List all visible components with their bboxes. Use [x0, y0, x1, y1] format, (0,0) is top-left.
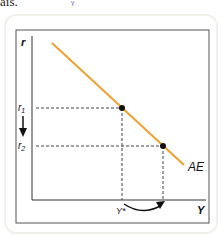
ystar-label: Y*: [116, 206, 126, 216]
equilibrium-point-1: [119, 105, 125, 111]
y-axis-label: r: [21, 36, 26, 48]
ae-label: AE: [187, 160, 205, 174]
diagram-frame: [16, 30, 209, 223]
ae-diagram: r Y AE r1 r2 Y*: [0, 0, 221, 235]
equilibrium-point-2: [160, 143, 166, 149]
